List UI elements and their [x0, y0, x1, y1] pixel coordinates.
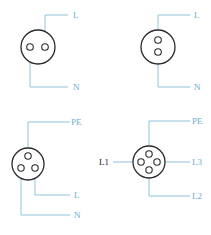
label-pe: PE [71, 117, 82, 127]
label-n: N [194, 82, 201, 92]
connector-four-pin: PE L1 L3 L2 [99, 116, 203, 201]
pin-pe [146, 151, 152, 157]
connector-three-pin: PE L N [12, 117, 82, 220]
label-l: L [74, 190, 80, 200]
pin-l [42, 44, 49, 51]
wire-l [158, 15, 190, 30]
connector-body [21, 30, 55, 64]
label-n: N [74, 210, 81, 220]
label-l1: L1 [99, 157, 109, 167]
pin-n [27, 44, 34, 51]
diagram-svg: L N L N PE L N [0, 0, 211, 235]
wire-l [35, 172, 70, 195]
pin-n [18, 165, 24, 171]
connector-two-pin-vertical: L N [141, 10, 201, 92]
connector-pinout-diagram: L N L N PE L N [0, 0, 211, 235]
pin-n [155, 49, 162, 56]
label-l: L [194, 10, 200, 20]
label-l3: L3 [192, 157, 202, 167]
pin-l [155, 37, 162, 44]
connector-two-pin-horizontal: L N [21, 10, 80, 92]
connector-body [141, 30, 175, 64]
label-l2: L2 [192, 191, 202, 201]
label-l: L [73, 10, 79, 20]
pin-pe [25, 153, 31, 159]
wire-pe [28, 122, 70, 148]
wire-n [158, 64, 190, 87]
pin-l2 [146, 167, 152, 173]
wire-pe [149, 121, 190, 146]
pin-l1 [138, 159, 144, 165]
pin-l [32, 165, 38, 171]
wire-l2 [149, 178, 190, 196]
label-pe: PE [192, 116, 203, 126]
label-n: N [73, 82, 80, 92]
pin-l3 [154, 159, 160, 165]
